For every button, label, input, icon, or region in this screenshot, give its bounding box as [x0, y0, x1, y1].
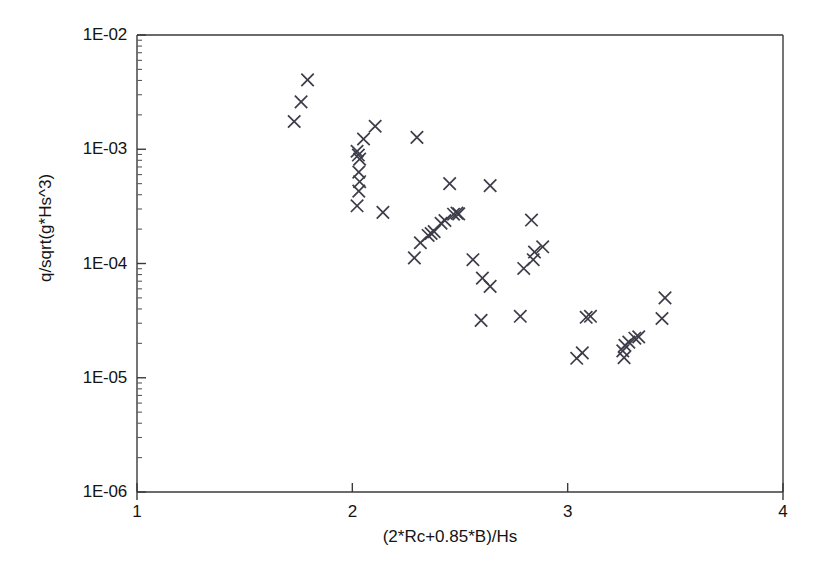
x-tick-label: 3 [538, 502, 598, 522]
data-point-marker [528, 246, 540, 258]
data-point-marker [484, 179, 496, 191]
data-point-marker [467, 253, 479, 265]
data-point-marker [288, 115, 300, 127]
data-point-marker [659, 292, 671, 304]
scatter-plot-figure: 1E-061E-051E-041E-031E-02 1234 q/sqrt(g*… [0, 0, 825, 571]
y-tick-label: 1E-03 [9, 139, 127, 159]
data-point-marker [301, 74, 313, 86]
data-point-marker [357, 133, 369, 145]
x-axis-label: (2*Rc+0.85*B)/Hs [300, 527, 600, 547]
data-point-marker [576, 347, 588, 359]
data-point-marker [525, 214, 537, 226]
y-tick-label: 1E-06 [9, 482, 127, 502]
y-tick-label: 1E-04 [9, 254, 127, 274]
data-point-marker [369, 120, 381, 132]
data-point-marker [377, 206, 389, 218]
data-point-marker [411, 131, 423, 143]
y-axis-label: q/sqrt(g*Hs^3) [36, 118, 56, 338]
x-tick-label: 2 [322, 502, 382, 522]
data-point-marker [443, 177, 455, 189]
x-tick-label: 1 [107, 502, 167, 522]
data-point-marker [484, 280, 496, 292]
data-point-marker [295, 96, 307, 108]
data-point-marker [351, 200, 363, 212]
data-point-marker [475, 314, 487, 326]
data-point-marker [353, 185, 365, 197]
data-point-marker [514, 310, 526, 322]
data-point-marker [408, 252, 420, 264]
y-tick-label: 1E-05 [9, 368, 127, 388]
data-point-marker [536, 241, 548, 253]
axes-group [137, 35, 783, 492]
x-tick-label: 4 [753, 502, 813, 522]
data-point-marker [656, 312, 668, 324]
ticks-group [137, 35, 783, 500]
data-markers-group [288, 74, 671, 365]
data-point-marker [439, 214, 451, 226]
y-tick-label: 1E-02 [9, 25, 127, 45]
